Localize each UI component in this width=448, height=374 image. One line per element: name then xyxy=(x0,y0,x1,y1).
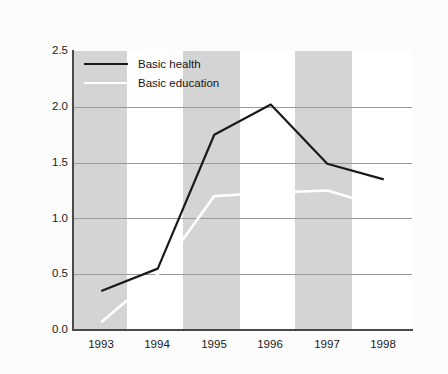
y-axis-ticks: 2.5 2.0 1.5 1.0 0.5 0.0 xyxy=(30,0,68,374)
y-tick-label: 1.5 xyxy=(34,157,68,168)
chart-legend: Basic health Basic education xyxy=(84,54,244,92)
y-tick-label: 0.5 xyxy=(34,268,68,279)
x-axis-line xyxy=(72,329,413,331)
plot-area xyxy=(73,51,412,330)
x-tick-label: 1996 xyxy=(240,338,300,350)
x-tick-label: 1994 xyxy=(127,338,187,350)
legend-entry-basic-education: Basic education xyxy=(84,73,244,92)
y-tick-label: 2.5 xyxy=(34,45,68,56)
y-tick-label: 2.0 xyxy=(34,101,68,112)
line-basic-health xyxy=(101,105,384,291)
legend-label-basic-health: Basic health xyxy=(138,58,201,70)
chart-figure: 2.5 2.0 1.5 1.0 0.5 0.0 1993 1994 1995 1… xyxy=(0,0,448,374)
legend-entry-basic-health: Basic health xyxy=(84,54,244,73)
x-tick-label: 1993 xyxy=(71,338,131,350)
series-lines xyxy=(73,51,412,330)
y-tick-label: 0.0 xyxy=(34,324,68,335)
legend-swatch-basic-education xyxy=(84,82,128,84)
x-tick-label: 1995 xyxy=(184,338,244,350)
y-tick-label: 1.0 xyxy=(34,213,68,224)
x-tick-label: 1997 xyxy=(297,338,357,350)
y-axis-line xyxy=(72,50,74,331)
legend-swatch-basic-health xyxy=(84,63,128,65)
legend-label-basic-education: Basic education xyxy=(138,77,219,89)
line-basic-education xyxy=(101,191,384,323)
x-tick-label: 1998 xyxy=(353,338,413,350)
